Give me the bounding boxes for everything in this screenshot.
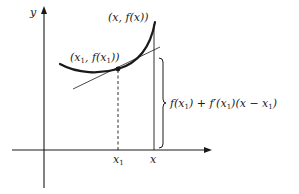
y-axis-label: y bbox=[29, 6, 37, 19]
point-x-label: (x, f(x)) bbox=[108, 11, 149, 24]
tangent-line-diagram: y (x, f(x)) (x1, f(x1)) x1 x f(x1) + f′(… bbox=[0, 0, 299, 194]
x1-tick-label: x1 bbox=[113, 153, 124, 167]
linear-approximation-formula: f(x1) + f′(x1)(x − x1) bbox=[169, 97, 277, 111]
x-tick-label: x bbox=[150, 153, 157, 166]
formula-brace bbox=[159, 58, 166, 148]
point-x1-label: (x1, f(x1)) bbox=[70, 51, 120, 65]
